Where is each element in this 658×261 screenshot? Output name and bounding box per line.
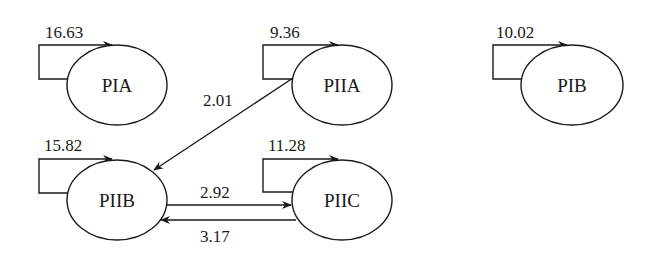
self-loop-label-pib: 10.02: [496, 23, 534, 42]
node-pib: PIB 10.02: [493, 23, 623, 125]
state-diagram: PIA 16.63 PIIA 9.36 PIB 10.02 PIIB 15.82…: [0, 0, 658, 261]
edge-piia-to-piib: 2.01: [154, 78, 293, 170]
edge-piib-to-piic: 2.92: [167, 183, 291, 205]
node-pib-label: PIB: [557, 75, 587, 96]
self-loop-label-pia: 16.63: [45, 23, 83, 42]
node-pia: PIA 16.63: [39, 23, 167, 125]
node-piic: PIIC 11.28: [263, 136, 392, 240]
node-piib: PIIB 15.82: [39, 136, 167, 240]
self-loop-label-piib: 15.82: [44, 136, 82, 155]
edge-label-piic-piib: 3.17: [200, 227, 230, 246]
node-piib-label: PIIB: [99, 190, 135, 211]
self-loop-label-piia: 9.36: [270, 23, 300, 42]
node-piia: PIIA 9.36: [263, 23, 392, 125]
self-loop-label-piic: 11.28: [268, 136, 306, 155]
node-piia-label: PIIA: [324, 75, 361, 96]
node-piic-label: PIIC: [324, 190, 360, 211]
edge-piic-to-piib: 3.17: [161, 220, 296, 246]
node-pia-label: PIA: [102, 75, 133, 96]
edge-label-piia-piib: 2.01: [203, 91, 233, 110]
edge-label-piib-piic: 2.92: [200, 183, 230, 202]
